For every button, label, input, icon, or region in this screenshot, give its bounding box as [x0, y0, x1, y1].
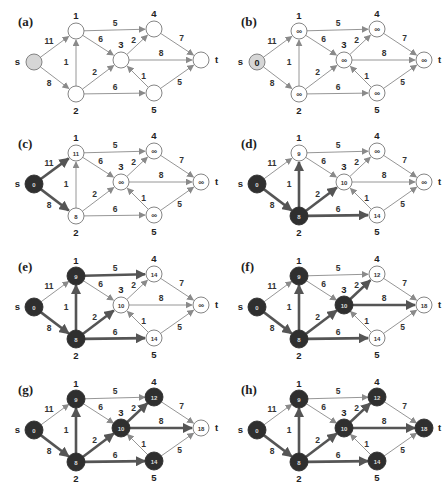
edge-weight: 8 — [382, 293, 387, 303]
node-4: 124 — [369, 253, 385, 282]
edge-weight: 11 — [268, 158, 277, 168]
node-2: ∞2 — [291, 86, 307, 116]
node-label: t — [215, 422, 219, 433]
edge-1-4: 5 — [84, 386, 145, 399]
edge-weight: 1 — [141, 316, 146, 326]
edge-weight: 8 — [270, 200, 275, 210]
node-3: 103 — [335, 284, 353, 314]
panel-a: (a)1185612628175s12345t — [0, 0, 223, 123]
edge-1-3: 6 — [83, 402, 114, 424]
edge-weight: 8 — [382, 416, 387, 426]
edge-weight: 1 — [141, 439, 146, 449]
edge-1-4: 5 — [84, 18, 145, 31]
node-label: 1 — [73, 10, 79, 21]
node-t: ∞t — [193, 174, 219, 190]
distance-value: ∞ — [421, 56, 427, 65]
node-4: 144 — [146, 253, 162, 282]
edge-weight: 2 — [315, 189, 320, 199]
edge-2-1: 1 — [287, 285, 299, 331]
edge-1-3: 6 — [306, 34, 337, 56]
edge-1-3: 6 — [83, 279, 114, 301]
edge-weight: 1 — [364, 71, 369, 81]
edge-5-3: 1 — [350, 311, 371, 332]
edge-weight: 5 — [113, 386, 118, 396]
node-label: 4 — [151, 130, 157, 141]
node-t: ∞t — [193, 297, 219, 313]
distance-value: 12 — [374, 272, 381, 278]
edge-1-3: 6 — [83, 34, 114, 56]
edge-weight: 5 — [113, 263, 118, 273]
edge-weight: 8 — [159, 48, 164, 58]
distance-value: 18 — [421, 303, 428, 309]
edge-weight: 6 — [98, 402, 103, 412]
edge-weight: 8 — [159, 293, 164, 303]
edge-s-1: 11 — [40, 404, 68, 426]
node-s: 0s — [238, 298, 266, 316]
edge-3-4: 2 — [350, 280, 371, 300]
node-1: 91 — [290, 255, 308, 285]
node-label: s — [238, 178, 243, 189]
node-label: 1 — [296, 10, 302, 21]
edge-s-2: 8 — [263, 67, 291, 89]
edge-weight: 1 — [64, 179, 69, 189]
edge-s-2: 8 — [40, 435, 68, 457]
edge-s-2: 8 — [40, 312, 68, 334]
node-4: 124 — [145, 376, 163, 406]
node-label: 5 — [374, 349, 380, 360]
node-5: ∞5 — [146, 207, 162, 237]
panel-f: (f)11856126281750s918210312414518t — [223, 245, 446, 368]
edge-2-5: 6 — [307, 450, 368, 462]
node-label: 5 — [374, 226, 380, 237]
edge-weight: 8 — [270, 323, 275, 333]
edge-2-1: 1 — [64, 285, 76, 331]
edge-2-5: 6 — [84, 204, 145, 216]
distance-value: ∞ — [341, 56, 347, 65]
node-label: 1 — [296, 255, 302, 266]
edge-weight: 5 — [336, 18, 341, 28]
distance-value: 10 — [341, 180, 348, 186]
node-2: 82 — [68, 208, 84, 238]
edge-5-t: 5 — [161, 433, 194, 456]
node-label: 1 — [73, 132, 79, 143]
distance-value: 10 — [118, 303, 125, 309]
edge-3-t: 8 — [352, 416, 415, 428]
edge-3-4: 2 — [350, 403, 371, 423]
edge-2-5: 6 — [307, 82, 368, 94]
edge-weight: 6 — [336, 204, 341, 214]
distance-value: ∞ — [421, 178, 427, 187]
node-5: 145 — [146, 330, 162, 360]
edge-weight: 1 — [287, 425, 292, 435]
edge-weight: 8 — [47, 78, 52, 88]
node-3: 103 — [112, 407, 130, 437]
edge-s-1: 11 — [40, 158, 68, 180]
edge-2-5: 6 — [84, 327, 145, 339]
distance-value: ∞ — [374, 89, 380, 98]
edge-weight: 2 — [354, 35, 359, 45]
edge-s-1: 11 — [263, 36, 291, 58]
edge-4-t: 7 — [384, 401, 417, 424]
node-2: 82 — [67, 453, 85, 484]
node-5: 145 — [369, 207, 385, 237]
edge-weight: 7 — [402, 33, 407, 43]
edge-weight: 6 — [321, 34, 326, 44]
node-label: 3 — [118, 161, 123, 172]
node-t: ∞t — [416, 52, 442, 68]
edge-1-3: 6 — [83, 156, 114, 178]
edge-2-3: 2 — [305, 433, 336, 457]
edge-3-4: 2 — [350, 35, 371, 55]
edge-weight: 2 — [354, 403, 359, 413]
distance-value: 10 — [341, 303, 348, 309]
edge-5-t: 5 — [384, 187, 417, 210]
node-label: 3 — [118, 39, 123, 50]
edge-weight: 5 — [400, 199, 405, 209]
edge-weight: 6 — [336, 450, 341, 460]
node-label: 2 — [296, 473, 301, 484]
panel-label: (d) — [241, 136, 257, 151]
edge-2-5: 6 — [84, 82, 145, 94]
edge-weight: 1 — [141, 193, 146, 203]
node-label: 3 — [118, 407, 123, 418]
edge-4-t: 7 — [384, 155, 417, 178]
node-label: 4 — [374, 130, 380, 141]
edge-weight: 8 — [382, 170, 387, 180]
edge-weight: 1 — [64, 302, 69, 312]
